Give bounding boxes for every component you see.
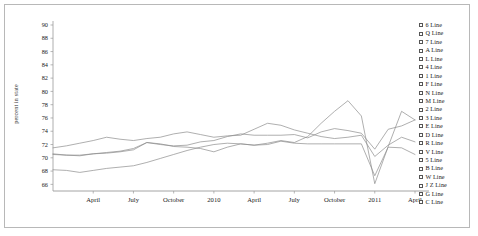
legend-item[interactable]: D Line <box>419 131 471 139</box>
x-axis-tick-label: October <box>163 196 185 203</box>
x-axis-tick-label: April <box>86 196 100 203</box>
legend-item-label: B Line <box>426 164 444 172</box>
x-axis-tick-label: July <box>289 196 301 203</box>
legend-checkbox-icon[interactable] <box>419 99 423 103</box>
legend-checkbox-icon[interactable] <box>419 108 423 112</box>
legend-item[interactable]: L Line <box>419 55 471 63</box>
legend-checkbox-icon[interactable] <box>419 158 423 162</box>
y-axis-tick-label: 84 <box>42 61 49 68</box>
legend-item[interactable]: V Line <box>419 148 471 156</box>
legend-item-label: C Line <box>426 198 444 206</box>
x-axis-tick-label: October <box>324 196 346 203</box>
legend-item-label: 3 Line <box>426 114 443 122</box>
y-axis-tick-label: 74 <box>42 127 49 134</box>
y-axis-tick-label: 88 <box>42 34 48 41</box>
legend-item[interactable]: B Line <box>419 164 471 172</box>
legend-item[interactable]: 2 Line <box>419 105 471 113</box>
chart-legend: 6 LineQ Line7 LineA LineL Line4 Line1 Li… <box>419 21 471 207</box>
legend-checkbox-icon[interactable] <box>419 124 423 128</box>
y-axis-tick-label: 76 <box>42 114 48 121</box>
y-axis-tick-label: 72 <box>42 141 48 148</box>
legend-item-label: 7 Line <box>426 38 443 46</box>
legend-item[interactable]: 1 Line <box>419 72 471 80</box>
legend-checkbox-icon[interactable] <box>419 141 423 145</box>
legend-checkbox-icon[interactable] <box>419 167 423 171</box>
legend-item-label: W Line <box>426 173 445 181</box>
legend-checkbox-icon[interactable] <box>419 175 423 179</box>
x-axis-tick-label: April <box>247 196 261 203</box>
chart-area: percent in state 66687072747678808284868… <box>5 5 471 227</box>
legend-item-label: J Z Line <box>426 181 447 189</box>
legend-checkbox-icon[interactable] <box>419 91 423 95</box>
legend-checkbox-icon[interactable] <box>419 82 423 86</box>
y-axis-tick-label: 90 <box>42 21 48 28</box>
legend-item[interactable]: 6 Line <box>419 21 471 29</box>
legend-item-label: 2 Line <box>426 105 443 113</box>
legend-checkbox-icon[interactable] <box>419 49 423 53</box>
legend-item[interactable]: C Line <box>419 198 471 206</box>
legend-item-label: R Line <box>426 139 444 147</box>
legend-checkbox-icon[interactable] <box>419 116 423 120</box>
y-axis-tick-label: 70 <box>42 154 48 161</box>
legend-item[interactable]: N Line <box>419 89 471 97</box>
line-chart-plot: 66687072747678808284868890AprilJulyOctob… <box>5 5 471 227</box>
legend-item-label: E Line <box>426 122 443 130</box>
legend-item-label: G Line <box>426 190 444 198</box>
x-axis-tick-label: 2011 <box>368 196 381 203</box>
chart-frame: percent in state 66687072747678808284868… <box>4 4 470 228</box>
legend-item[interactable]: E Line <box>419 122 471 130</box>
y-axis-tick-label: 78 <box>42 101 48 108</box>
x-axis-tick-label: July <box>128 196 140 203</box>
legend-item-label: N Line <box>426 89 444 97</box>
legend-item-label: 6 Line <box>426 21 443 29</box>
legend-item[interactable]: R Line <box>419 139 471 147</box>
legend-item-label: A Line <box>426 46 444 54</box>
legend-item-label: D Line <box>426 131 444 139</box>
legend-item[interactable]: A Line <box>419 46 471 54</box>
legend-item[interactable]: 7 Line <box>419 38 471 46</box>
y-axis-tick-label: 82 <box>42 74 48 81</box>
legend-item-label: 1 Line <box>426 72 443 80</box>
y-axis-tick-label: 68 <box>42 167 48 174</box>
chart-series-line <box>53 141 415 176</box>
x-axis-tick-label: 2010 <box>207 196 221 203</box>
legend-checkbox-icon[interactable] <box>419 200 423 204</box>
legend-checkbox-icon[interactable] <box>419 65 423 69</box>
legend-checkbox-icon[interactable] <box>419 23 423 27</box>
legend-item[interactable]: G Line <box>419 190 471 198</box>
legend-item[interactable]: W Line <box>419 173 471 181</box>
legend-checkbox-icon[interactable] <box>419 133 423 137</box>
legend-checkbox-icon[interactable] <box>419 192 423 196</box>
legend-item-label: Q Line <box>426 29 444 37</box>
legend-item-label: L Line <box>426 55 443 63</box>
legend-item[interactable]: M Line <box>419 97 471 105</box>
legend-item[interactable]: F Line <box>419 80 471 88</box>
chart-series-line <box>53 101 415 184</box>
legend-checkbox-icon[interactable] <box>419 32 423 36</box>
legend-checkbox-icon[interactable] <box>419 184 423 188</box>
legend-checkbox-icon[interactable] <box>419 74 423 78</box>
legend-item[interactable]: 5 Line <box>419 156 471 164</box>
legend-item-label: 5 Line <box>426 156 443 164</box>
legend-checkbox-icon[interactable] <box>419 40 423 44</box>
chart-series-line <box>53 123 415 156</box>
legend-item-label: V Line <box>426 148 444 156</box>
y-axis-tick-label: 80 <box>42 88 48 95</box>
legend-item[interactable]: 3 Line <box>419 114 471 122</box>
legend-item-label: F Line <box>426 80 443 88</box>
legend-item[interactable]: Q Line <box>419 29 471 37</box>
legend-item-label: M Line <box>426 97 445 105</box>
legend-item[interactable]: J Z Line <box>419 181 471 189</box>
legend-checkbox-icon[interactable] <box>419 150 423 154</box>
y-axis-tick-label: 66 <box>42 181 48 188</box>
y-axis-tick-label: 86 <box>42 48 48 55</box>
legend-item[interactable]: 4 Line <box>419 63 471 71</box>
legend-item-label: 4 Line <box>426 63 443 71</box>
legend-checkbox-icon[interactable] <box>419 57 423 61</box>
